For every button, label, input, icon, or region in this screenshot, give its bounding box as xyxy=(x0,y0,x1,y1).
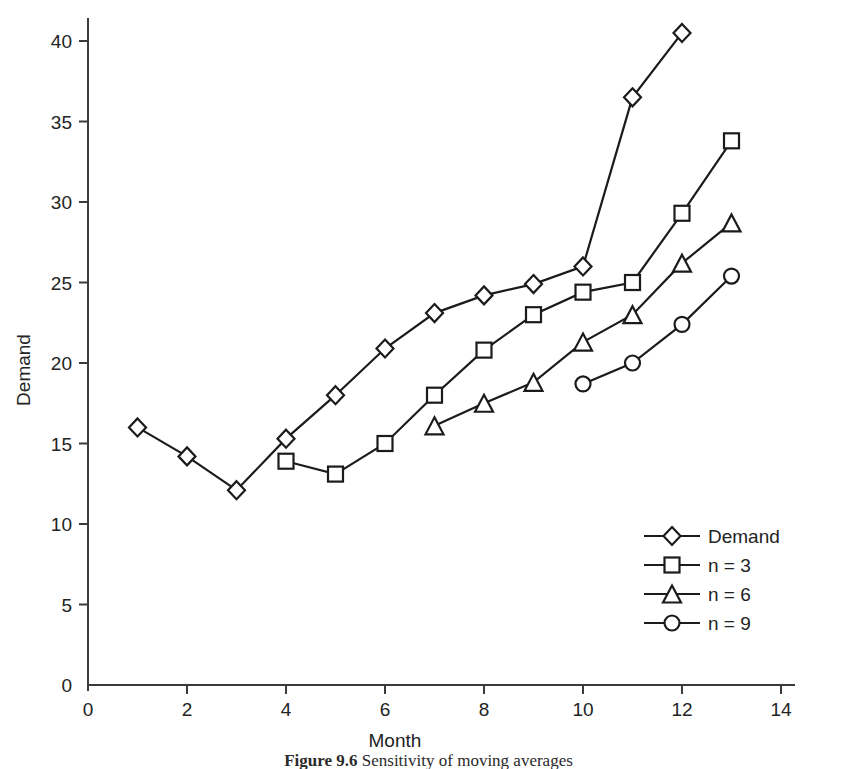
axis-titles: MonthDemand xyxy=(13,334,421,751)
series-n-9 xyxy=(576,269,740,392)
data-point-square xyxy=(724,133,739,148)
data-point-diamond xyxy=(575,257,592,275)
y-tick-label: 10 xyxy=(51,514,72,535)
data-point-square xyxy=(675,206,690,221)
axes: 051015202530354002468101214 xyxy=(51,18,795,720)
legend-label: n = 6 xyxy=(708,584,751,605)
legend-item-demand[interactable]: Demand xyxy=(644,526,780,547)
x-tick-label: 2 xyxy=(182,699,193,720)
x-tick-label: 4 xyxy=(281,699,292,720)
data-point-diamond xyxy=(476,286,493,304)
data-point-square xyxy=(328,467,343,482)
line-chart: 051015202530354002468101214 Demandn = 3n… xyxy=(0,0,857,769)
y-tick-label: 20 xyxy=(51,353,72,374)
x-tick-label: 8 xyxy=(479,699,490,720)
data-point-diamond xyxy=(179,447,196,465)
data-point-diamond xyxy=(129,418,146,436)
data-point-triangle xyxy=(475,395,493,412)
y-tick-label: 15 xyxy=(51,434,72,455)
figure-caption: Figure 9.6 Sensitivity of moving average… xyxy=(0,752,857,769)
data-point-square xyxy=(279,454,294,469)
data-point-square xyxy=(477,343,492,358)
x-axis-title: Month xyxy=(368,730,421,751)
data-point-circle xyxy=(665,616,680,631)
x-tick-label: 6 xyxy=(380,699,391,720)
y-tick-label: 40 xyxy=(51,31,72,52)
caption-line: Figure 9.6 Sensitivity of moving average… xyxy=(0,752,857,769)
y-tick-label: 5 xyxy=(61,595,72,616)
data-point-triangle xyxy=(574,334,592,351)
legend-label: n = 9 xyxy=(708,613,751,634)
y-tick-label: 0 xyxy=(61,675,72,696)
data-point-square xyxy=(625,275,640,290)
series-n-6 xyxy=(426,214,741,434)
legend-label: n = 3 xyxy=(708,555,751,576)
data-point-square xyxy=(378,436,393,451)
y-tick-label: 30 xyxy=(51,192,72,213)
series-layer xyxy=(129,24,741,499)
series-path xyxy=(138,33,683,490)
data-point-square xyxy=(427,388,442,403)
data-point-circle xyxy=(724,269,739,284)
data-point-circle xyxy=(576,376,591,391)
data-point-diamond xyxy=(426,304,443,322)
x-tick-label: 14 xyxy=(770,699,792,720)
x-tick-label: 10 xyxy=(572,699,593,720)
y-tick-label: 35 xyxy=(51,112,72,133)
data-point-square xyxy=(526,307,541,322)
series-path xyxy=(286,141,732,474)
legend-item-n-6[interactable]: n = 6 xyxy=(644,584,751,605)
x-tick-label: 0 xyxy=(83,699,94,720)
data-point-diamond xyxy=(664,527,681,545)
data-point-triangle xyxy=(723,214,741,231)
series-demand xyxy=(129,24,691,499)
caption-body: Sensitivity of moving averages xyxy=(362,752,573,769)
chart-legend: Demandn = 3n = 6n = 9 xyxy=(644,526,780,634)
series-n-3 xyxy=(279,133,740,481)
y-tick-label: 25 xyxy=(51,273,72,294)
data-point-square xyxy=(576,285,591,300)
data-point-diamond xyxy=(525,275,542,293)
data-point-triangle xyxy=(426,417,444,434)
legend-label: Demand xyxy=(708,526,780,547)
legend-item-n-9[interactable]: n = 9 xyxy=(644,613,751,634)
data-point-circle xyxy=(625,356,640,371)
data-point-square xyxy=(665,558,680,573)
x-tick-label: 12 xyxy=(671,699,692,720)
y-axis-title: Demand xyxy=(13,334,34,406)
caption-number: Figure 9.6 xyxy=(284,752,357,769)
legend-item-n-3[interactable]: n = 3 xyxy=(644,555,751,576)
figure-container: 051015202530354002468101214 Demandn = 3n… xyxy=(0,0,857,769)
data-point-circle xyxy=(675,317,690,332)
